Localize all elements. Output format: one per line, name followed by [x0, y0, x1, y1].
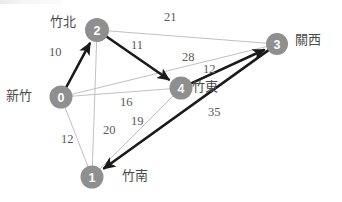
city-label-4: 竹東	[192, 80, 218, 93]
graph-edge-0-3	[71, 46, 267, 94]
graph-node-label-4: 4	[178, 82, 185, 96]
edge-weight-2-4: 11	[131, 39, 143, 52]
edge-weight-2-3: 21	[164, 11, 177, 24]
edge-weight-0-4: 16	[120, 96, 133, 109]
graph-node-label-2: 2	[94, 24, 101, 38]
edge-weight-0-2: 10	[49, 46, 62, 59]
edge-weight-1-4: 19	[131, 115, 144, 128]
thin-edges-group	[65, 31, 267, 170]
graph-edge-2-1	[92, 41, 96, 167]
graph-edge-3-1	[104, 50, 269, 168]
edge-weight-0-1: 12	[61, 133, 74, 146]
graph-node-label-3: 3	[274, 38, 281, 52]
edge-weight-4-3: 12	[203, 63, 216, 76]
edge-weight-0-3: 28	[182, 51, 195, 64]
graph-figure: 01234 21101128121619201235 新竹竹南竹北關西竹東	[0, 0, 342, 202]
graph-node-label-1: 1	[89, 171, 96, 185]
city-label-3: 關西	[295, 33, 321, 46]
city-label-1: 竹南	[122, 169, 148, 182]
graph-edge-0-2	[66, 44, 90, 88]
nodes-group: 01234	[50, 18, 289, 189]
city-label-2: 竹北	[50, 15, 76, 28]
edge-weight-3-1: 35	[208, 106, 221, 119]
city-label-0: 新竹	[6, 89, 32, 102]
edge-weight-2-1: 20	[103, 124, 116, 137]
graph-node-label-0: 0	[58, 91, 65, 105]
graph-canvas: 01234	[0, 0, 342, 202]
